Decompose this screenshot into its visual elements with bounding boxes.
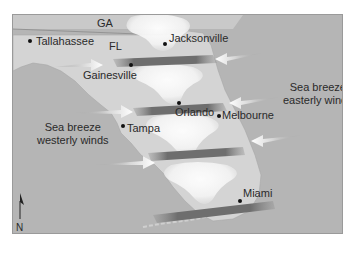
annotation-westerly-line2: westerly winds [37,134,109,147]
city-dot-jacksonville [163,42,167,46]
city-label-tampa: Tampa [127,122,160,134]
annotation-westerly: Sea breeze westerly winds [37,121,109,147]
city-label-jacksonville: Jacksonville [169,32,228,44]
state-label-ga: GA [97,17,113,29]
city-label-gainesville: Gainesville [83,69,137,81]
city-label-melbourne: Melbourne [222,109,274,121]
north-label: N [16,222,23,234]
city-dot-tampa [121,124,125,128]
state-label-fl: FL [109,40,122,52]
city-dot-melbourne [217,114,221,118]
north-arrow-icon [20,193,24,219]
annotation-westerly-line1: Sea breeze [37,121,109,134]
city-dot-gainesville [129,63,133,67]
florida-sea-breeze-map: GA FL Tallahassee Jacksonville Gainesvil… [12,14,343,234]
annotation-easterly-line1: Sea breeze [283,81,343,94]
city-label-tallahassee: Tallahassee [36,35,94,47]
annotation-easterly-line2: easterly winds [283,94,343,107]
city-label-miami: Miami [243,187,272,199]
city-label-orlando: Orlando [175,106,214,118]
city-dot-orlando [177,101,181,105]
annotation-easterly: Sea breeze easterly winds [283,81,343,107]
city-dot-miami [238,199,242,203]
city-dot-tallahassee [28,39,32,43]
